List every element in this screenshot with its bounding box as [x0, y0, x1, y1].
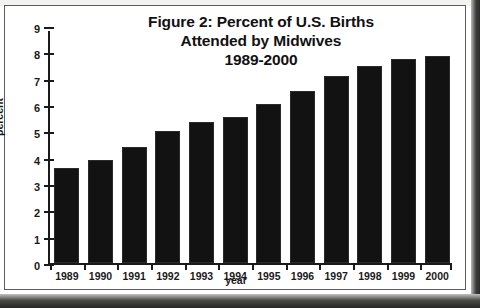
y-axis-tick-label: 7: [22, 77, 40, 87]
y-axis-tick-label: 9: [22, 24, 40, 34]
scan-right-shadow: [471, 0, 480, 308]
y-axis-tick: [44, 53, 54, 55]
x-axis-tick: [319, 263, 321, 270]
y-axis-tick-label: 6: [22, 103, 40, 113]
y-axis-tick-label: 8: [22, 50, 40, 60]
y-axis-tick: [44, 264, 54, 266]
x-axis-tick: [353, 263, 355, 270]
y-axis-line: [48, 31, 50, 265]
y-axis-tick: [44, 106, 54, 108]
bar: [54, 168, 79, 263]
chart-plate: Figure 2: Percent of U.S. Births Attende…: [4, 5, 466, 290]
y-axis-title: percent: [0, 98, 5, 136]
scanned-page: Figure 2: Percent of U.S. Births Attende…: [0, 0, 480, 308]
y-axis-tick-label: 4: [22, 156, 40, 166]
x-axis-tick: [286, 263, 288, 270]
bar: [256, 104, 281, 263]
y-axis-tick-label: 3: [22, 182, 40, 192]
bar: [425, 56, 450, 263]
x-axis-tick: [218, 263, 220, 270]
y-axis-tick: [44, 211, 54, 213]
x-axis-tick: [450, 263, 452, 270]
y-axis-tick-label: 1: [22, 235, 40, 245]
x-axis-title: year: [5, 274, 467, 286]
bar: [155, 131, 180, 263]
plot-area: 0123456789: [48, 26, 452, 265]
bar: [290, 91, 315, 263]
y-axis-tick-label: 5: [22, 129, 40, 139]
bar: [391, 59, 416, 263]
bar: [88, 160, 113, 263]
y-axis-tick: [44, 132, 54, 134]
x-axis-tick: [84, 263, 86, 270]
x-axis-tick: [420, 263, 422, 270]
bar: [324, 76, 349, 263]
bar: [122, 147, 147, 263]
scan-bottom-shadow: [0, 294, 480, 308]
bar: [189, 122, 214, 263]
y-axis-tick-label: 0: [22, 261, 40, 271]
x-axis-tick: [117, 263, 119, 270]
bar: [223, 117, 248, 263]
y-axis-tick: [44, 27, 54, 29]
x-axis-tick: [50, 263, 52, 270]
x-axis-tick: [151, 263, 153, 270]
y-axis-tick: [44, 238, 54, 240]
y-axis-tick: [44, 80, 54, 82]
x-axis-line: [48, 263, 452, 265]
y-axis-tick: [44, 159, 54, 161]
y-axis-tick: [44, 185, 54, 187]
y-axis-tick-label: 2: [22, 208, 40, 218]
x-axis-tick: [387, 263, 389, 270]
x-axis-tick: [185, 263, 187, 270]
x-axis-tick: [252, 263, 254, 270]
bar: [357, 66, 382, 264]
